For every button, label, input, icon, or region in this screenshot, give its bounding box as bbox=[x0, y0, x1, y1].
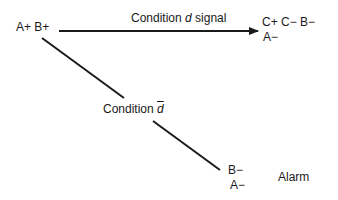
label-var-negated: d bbox=[157, 102, 164, 116]
target-top-line1: C+ C− B− bbox=[262, 15, 315, 29]
target-bottom-line2: A− bbox=[230, 178, 245, 192]
target-top-line2: A− bbox=[263, 30, 278, 44]
start-state-label: A+ B+ bbox=[16, 20, 49, 34]
label-suffix: signal bbox=[192, 11, 227, 25]
diag-line-upper bbox=[42, 38, 124, 98]
label-prefix: Condition bbox=[131, 11, 185, 25]
condition-d-signal-label: Condition d signal bbox=[131, 11, 226, 25]
label-prefix: Condition bbox=[103, 102, 157, 116]
label-var: d bbox=[185, 11, 192, 25]
condition-not-d-label: Condition d bbox=[103, 102, 164, 116]
sequence-diagram: A+ B+ Condition d signal C+ C− B− A− Con… bbox=[0, 0, 338, 200]
alarm-label: Alarm bbox=[278, 170, 309, 184]
diag-line-lower bbox=[153, 121, 220, 170]
target-bottom-line1: B− bbox=[228, 163, 243, 177]
